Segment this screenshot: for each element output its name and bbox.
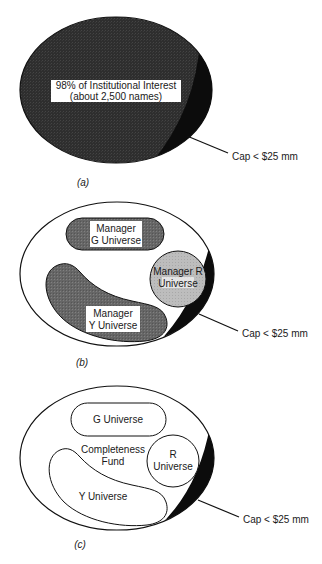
- main-region-label-line2: (about 2,500 names): [70, 91, 162, 102]
- panel-b: Manager G Universe Manager R Universe Ma…: [20, 202, 308, 368]
- manager-r-label-line1: Manager R: [153, 266, 202, 277]
- panel-label: (b): [76, 357, 88, 368]
- panel-label: (a): [77, 177, 89, 188]
- manager-y-label-line2: Y Universe: [89, 320, 138, 331]
- manager-g-label-line2: G Universe: [91, 235, 141, 246]
- g-universe-label: G Universe: [93, 414, 143, 425]
- panel-a: 98% of Institutional Interest (about 2,5…: [20, 17, 298, 188]
- manager-g-label-line1: Manager: [96, 223, 136, 234]
- completeness-fund-label-line2: Fund: [102, 456, 125, 467]
- callout-label: Cap < $25 mm: [232, 151, 298, 162]
- completeness-fund-label-line1: Completeness: [81, 444, 145, 455]
- manager-y-label-line1: Manager: [93, 308, 133, 319]
- callout-pointer-line: [187, 136, 228, 153]
- panel-label: (c): [74, 539, 86, 550]
- panel-c: G Universe R Universe Y Universe Complet…: [20, 386, 309, 550]
- callout-pointer-line: [198, 500, 239, 517]
- callout-label: Cap < $25 mm: [242, 328, 308, 339]
- callout-pointer-line: [199, 314, 238, 331]
- r-universe-label-line1: R: [169, 449, 176, 460]
- r-universe-label-line2: Universe: [153, 461, 193, 472]
- main-region-label-line1: 98% of Institutional Interest: [56, 80, 177, 91]
- y-universe-label: Y Universe: [79, 491, 128, 502]
- callout-label: Cap < $25 mm: [243, 514, 309, 525]
- manager-r-label-line2: Universe: [158, 278, 198, 289]
- truncated-caption: [62, 552, 320, 562]
